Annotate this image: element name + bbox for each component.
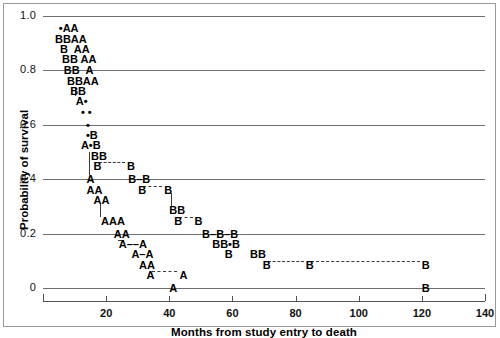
gridline	[43, 288, 485, 289]
data-point-mark: B	[138, 185, 146, 196]
dashed-connector	[152, 271, 178, 272]
vertical-connector	[89, 152, 90, 175]
data-point-mark: B	[127, 161, 135, 172]
survival-chart-figure: Probability of survival 1.00.80.60.40.20…	[0, 0, 500, 338]
x-tick-mark	[485, 294, 486, 301]
y-tick-label: 0.6	[3, 118, 36, 130]
y-tick-label: 0	[3, 281, 36, 293]
y-tick-label: 0.2	[3, 227, 36, 239]
dashed-connector	[311, 261, 420, 262]
x-tick-label: 40	[149, 307, 189, 319]
data-point-mark: B	[164, 185, 172, 196]
x-axis-label: Months from study entry to death	[43, 326, 485, 338]
gridline	[43, 16, 485, 17]
data-point-mark: B	[94, 161, 102, 172]
data-point-mark: A	[169, 283, 177, 294]
data-point-mark: • •	[81, 107, 92, 118]
x-tick-mark	[43, 294, 44, 301]
x-tick-mark	[359, 296, 360, 301]
x-tick-label: 20	[86, 307, 126, 319]
x-tick-label: 100	[339, 307, 379, 319]
x-tick-mark	[106, 296, 107, 301]
data-point-mark: AAA	[101, 216, 125, 227]
data-point-mark: B	[422, 260, 430, 271]
x-axis-line	[43, 301, 485, 302]
y-tick-label: 1.0	[3, 9, 36, 21]
data-point-mark: B	[174, 216, 182, 227]
dashed-connector	[99, 162, 126, 163]
x-tick-label: 60	[212, 307, 252, 319]
x-tick-mark	[232, 296, 233, 301]
gridline	[43, 179, 485, 180]
data-point-mark: AA	[94, 195, 110, 206]
data-point-mark: A	[147, 270, 155, 281]
data-point-mark: B	[422, 283, 430, 294]
dashed-connector	[268, 261, 304, 262]
x-tick-mark	[422, 296, 423, 301]
gridline	[43, 125, 485, 126]
data-point-mark: B	[225, 249, 233, 260]
data-point-mark: B	[306, 260, 314, 271]
x-tick-label: 120	[402, 307, 442, 319]
x-tick-mark	[169, 296, 170, 301]
y-tick-label: 0.8	[3, 63, 36, 75]
data-point-mark: B	[195, 216, 203, 227]
data-point-mark: B	[263, 260, 271, 271]
gridline	[43, 70, 485, 71]
data-point-mark: A	[179, 270, 187, 281]
x-tick-label: 80	[276, 307, 316, 319]
gridline	[43, 234, 485, 235]
x-tick-mark	[296, 296, 297, 301]
x-tick-label: 140	[465, 307, 500, 319]
y-tick-label: 0.4	[3, 172, 36, 184]
